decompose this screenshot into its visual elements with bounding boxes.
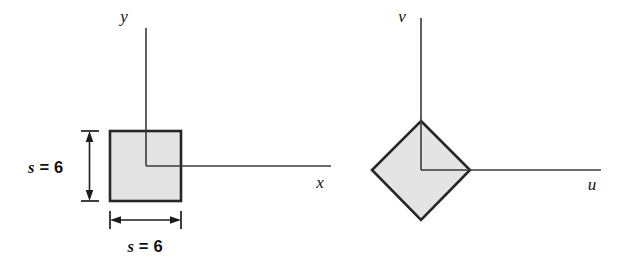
vertical-dim-var: s — [27, 158, 34, 177]
mechanics-cross-section-figure: y x s=6 s=6 — [0, 0, 627, 260]
figure-container: y x s=6 s=6 — [0, 0, 627, 260]
horizontal-dim-eq: = — [139, 237, 149, 255]
vertical-dim-arrow-up-icon — [86, 131, 94, 142]
horizontal-dimension-label: s=6 — [126, 237, 162, 256]
horizontal-dim-arrow-right-icon — [170, 216, 181, 224]
horizontal-dim-var: s — [126, 237, 133, 256]
x-axis-label: x — [315, 173, 324, 192]
v-axis-label: v — [398, 7, 406, 26]
left-panel-group: y x s=6 s=6 — [27, 7, 331, 256]
horizontal-dim-value: 6 — [153, 237, 162, 255]
vertical-dim-value: 6 — [54, 158, 63, 176]
u-axis-label: u — [588, 175, 597, 194]
horizontal-dim-arrow-left-icon — [110, 216, 121, 224]
vertical-dim-eq: = — [39, 158, 49, 176]
vertical-dimension-label: s=6 — [27, 158, 63, 177]
y-axis-label: y — [118, 7, 128, 26]
vertical-dim-arrow-down-icon — [86, 190, 94, 201]
right-panel-group: v u — [372, 7, 601, 220]
